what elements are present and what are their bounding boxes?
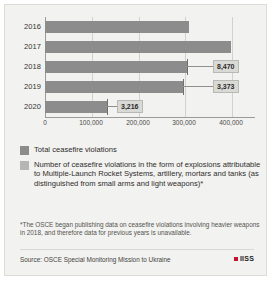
- x-axis-line: [45, 117, 255, 118]
- bar-row: 2017: [14, 37, 259, 57]
- bar-rows: 2016 2017 2018 8,470: [14, 17, 259, 133]
- bar-total-2018: [45, 61, 187, 73]
- leader-line-2018: [187, 66, 213, 67]
- bar-total-2017: [45, 41, 231, 53]
- y-axis-label: 2016: [14, 17, 41, 37]
- y-axis-label: 2017: [14, 37, 41, 57]
- data-label-2019: 3,373: [213, 80, 239, 93]
- chart-footnote: *The OSCE began publishing data on cease…: [20, 221, 260, 238]
- data-label-2020: 3,216: [117, 100, 143, 113]
- x-tick-label: 0: [43, 119, 47, 126]
- value-marker-2020: [107, 99, 108, 115]
- x-tick-label: 200,000: [126, 119, 150, 126]
- bar-total-2020: [45, 101, 107, 113]
- chart-footer: Source: OSCE Special Monitoring Mission …: [20, 255, 254, 267]
- logo-square-icon: [234, 257, 238, 261]
- bar-zone: [45, 17, 255, 37]
- legend-label: Number of ceasefire violations in the fo…: [34, 160, 265, 189]
- bar-zone: 3,216: [45, 97, 255, 117]
- y-axis-label: 2019: [14, 77, 41, 97]
- legend-item-heavy-weapons: Number of ceasefire violations in the fo…: [20, 160, 265, 189]
- legend-swatch-icon: [20, 161, 29, 170]
- value-marker-2018: [187, 59, 188, 75]
- leader-line-2020: [107, 106, 117, 107]
- chart-plot: 2016 2017 2018 8,470: [14, 17, 259, 133]
- bar-row: 2016: [14, 17, 259, 37]
- x-tick-label: 400,000: [219, 119, 243, 126]
- logo-text: IISS: [240, 255, 254, 262]
- legend-item-total: Total ceasefire violations: [20, 145, 265, 155]
- chart-card: 2016 2017 2018 8,470: [4, 4, 267, 276]
- chart-legend: Total ceasefire violations Number of cea…: [20, 145, 265, 193]
- bar-row: 2018 8,470: [14, 57, 259, 77]
- leader-line-2019: [183, 86, 213, 87]
- x-tick-label: 100,000: [79, 119, 103, 126]
- x-tick-label: 300,000: [172, 119, 196, 126]
- legend-swatch-icon: [20, 146, 29, 155]
- bar-total-2019: [45, 81, 183, 93]
- bar-zone: 8,470: [45, 57, 255, 77]
- legend-label: Total ceasefire violations: [34, 145, 265, 155]
- y-axis-label: 2018: [14, 57, 41, 77]
- bar-total-2016: [45, 21, 189, 33]
- footer-divider: [20, 249, 254, 250]
- value-marker-2019: [183, 79, 184, 95]
- bar-row: 2020 3,216: [14, 97, 259, 117]
- x-axis-ticks: 0 100,000 200,000 300,000 400,000: [45, 119, 255, 131]
- iiss-logo: IISS: [234, 255, 254, 262]
- data-label-2018: 8,470: [213, 60, 239, 73]
- bar-zone: 3,373: [45, 77, 255, 97]
- bar-zone: [45, 37, 255, 57]
- y-axis-label: 2020: [14, 97, 41, 117]
- source-label: Source: OSCE Special Monitoring Mission …: [20, 255, 171, 265]
- bar-row: 2019 3,373: [14, 77, 259, 97]
